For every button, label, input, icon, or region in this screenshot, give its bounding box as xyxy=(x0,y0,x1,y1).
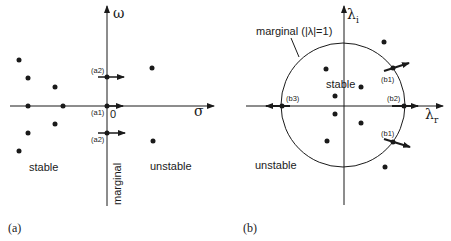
svg-text:(b1): (b1) xyxy=(381,75,395,84)
unstable-points xyxy=(150,66,156,144)
lambda-i-label: λi xyxy=(347,6,359,25)
svg-text:(b3): (b3) xyxy=(286,94,300,103)
marginal-circle-label: marginal (|λ|=1) xyxy=(256,25,332,37)
panel-b-label: (b) xyxy=(243,221,257,235)
marginal-pointer xyxy=(291,38,299,57)
unstable-region-label-b: unstable xyxy=(255,159,297,171)
sigma-axis-label: σ xyxy=(194,103,204,119)
svg-text:(b2): (b2) xyxy=(387,94,401,103)
omega-axis-label: ω xyxy=(113,5,124,21)
stable-region-label: stable xyxy=(29,161,58,173)
unit-circle xyxy=(281,43,405,167)
panel-a-label: (a) xyxy=(8,221,21,235)
origin-label: 0 xyxy=(110,108,116,120)
unstable-region-label: unstable xyxy=(150,160,192,172)
svg-text:(a2): (a2) xyxy=(91,66,105,75)
svg-text:(b1): (b1) xyxy=(381,129,395,138)
svg-text:(a2): (a2) xyxy=(91,135,105,144)
panel-a: ω σ 0 (a2) (a1) xyxy=(8,5,214,235)
panel-b: λi λr marginal (|λ|=1) (b1) (b2) xyxy=(243,6,443,235)
stable-region-label-b: stable xyxy=(326,78,355,90)
lambda-r-label: λr xyxy=(425,106,439,125)
marginal-label: marginal xyxy=(111,163,123,205)
figure: ω σ 0 (a2) (a1) xyxy=(0,0,451,241)
svg-text:(a1): (a1) xyxy=(91,108,105,117)
crossing-b1-upper: (b1) xyxy=(381,63,409,84)
crossing-a2-lower: (a2) xyxy=(91,131,125,145)
